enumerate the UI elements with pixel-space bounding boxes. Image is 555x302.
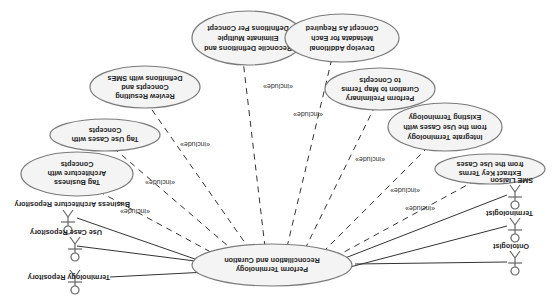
svg-text:Concept As Required: Concept As Required [306, 24, 379, 33]
use-case-perform-terminology-reconciliation[interactable]: Perform Terminology Reconciliation and C… [192, 244, 352, 286]
use-case-review-resulting-concepts[interactable]: Review Resulting Concepts and Definition… [90, 66, 200, 108]
svg-text:Definitions with SMEs: Definitions with SMEs [107, 74, 182, 83]
svg-text:from the Use Cases with: from the Use Cases with [403, 123, 486, 132]
actor-ontologist[interactable]: Ontologist [492, 242, 529, 275]
actor-label: Ontologist [492, 242, 529, 251]
actor-terminology-repository[interactable]: Terminology Repository [28, 270, 110, 294]
use-case-tag-business-architecture[interactable]: Tag Business Architecture with Concepts [21, 152, 133, 196]
actor-icon [68, 237, 82, 261]
svg-text:from the Use Cases: from the Use Cases [456, 160, 523, 169]
include-label: «include» [405, 205, 435, 212]
svg-text:Develop Additional: Develop Additional [310, 44, 375, 53]
actor-sme-liaison[interactable]: SME Liaison [490, 176, 533, 209]
svg-text:Curation to Map Terms: Curation to Map Terms [341, 85, 419, 94]
svg-text:Tag Use Cases with: Tag Use Cases with [72, 135, 139, 144]
svg-text:Definitions Per Concept: Definitions Per Concept [207, 24, 289, 33]
svg-text:Eliminate Multiple: Eliminate Multiple [217, 34, 278, 43]
actor-icon [508, 185, 522, 209]
use-case-develop-additional-metadata[interactable]: Develop Additional Metadata for Each Con… [285, 14, 399, 62]
svg-text:Concepts: Concepts [89, 126, 122, 135]
svg-text:to Concepts: to Concepts [359, 76, 401, 85]
include-label: «include» [120, 208, 150, 215]
use-case-diagram: «include» «include» «include» «include» … [0, 0, 555, 302]
actor-label: Terminologist [485, 209, 533, 218]
svg-text:Integrate Terminology: Integrate Terminology [408, 133, 483, 142]
actor-terminologist[interactable]: Terminologist [485, 209, 533, 242]
use-case-perform-preliminary-curation[interactable]: Perform Preliminary Curation to Map Term… [325, 68, 435, 110]
include-label: «include» [180, 141, 210, 148]
actor-label: Terminology Repository [28, 273, 110, 282]
actor-label: SME Liaison [490, 176, 533, 185]
actor-use-case-repository[interactable]: Use Case Repository [30, 228, 102, 261]
include-label: «include» [390, 187, 420, 194]
svg-text:Concepts and: Concepts and [121, 83, 169, 92]
actor-icon [508, 218, 522, 242]
svg-text:Tag Business: Tag Business [54, 178, 100, 187]
actor-label: Business Architecture Repository [14, 200, 130, 209]
svg-text:Reconciliation and Curation: Reconciliation and Curation [224, 256, 319, 265]
svg-text:Perform Preliminary: Perform Preliminary [346, 94, 415, 103]
include-label: «include» [293, 111, 323, 118]
use-case-tag-use-cases[interactable]: Tag Use Cases with Concepts [50, 119, 160, 151]
use-case-integrate-terminology[interactable]: Integrate Terminology from the Use Cases… [388, 103, 502, 151]
svg-text:Concepts: Concepts [61, 160, 94, 169]
svg-text:Reconcile Definitions and: Reconcile Definitions and [204, 44, 292, 53]
svg-text:Existing Terminology: Existing Terminology [409, 113, 482, 122]
actor-icon [508, 251, 522, 275]
svg-text:Perform Terminology: Perform Terminology [236, 265, 308, 274]
svg-text:Review Resulting: Review Resulting [115, 92, 175, 101]
svg-text:Architecture with: Architecture with [48, 169, 107, 178]
include-label: «include» [355, 156, 385, 163]
include-label: «include» [145, 179, 175, 186]
include-label: «include» [263, 83, 293, 90]
actor-label: Use Case Repository [30, 228, 102, 237]
svg-text:Metadata for Each: Metadata for Each [311, 34, 373, 43]
